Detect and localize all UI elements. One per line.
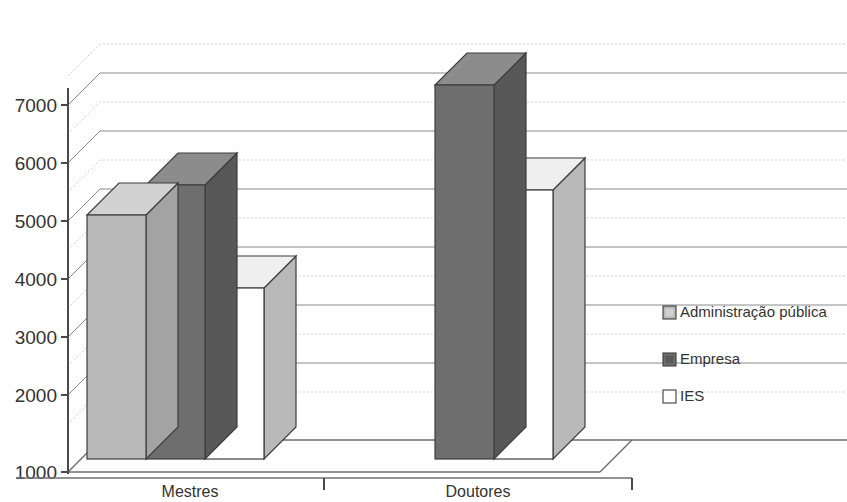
y-tick-label-7000: 7000 <box>15 95 57 116</box>
bar-side-face <box>494 53 526 459</box>
y-tick-label-2000: 2000 <box>15 385 57 406</box>
y-tick-label-4000: 4000 <box>15 269 57 290</box>
legend-swatch-inner-administracao-publica <box>666 309 674 317</box>
x-axis: Mestres Doutores <box>16 478 632 500</box>
y-tick-label-3000: 3000 <box>15 327 57 348</box>
bar-chart: 7000 6000 5000 4000 3000 2000 1000 <box>0 0 847 502</box>
x-category-label-doutores: Doutores <box>446 483 511 500</box>
y-tick-label-1000: 1000 <box>15 462 57 483</box>
bar-side-face <box>146 183 178 459</box>
y-axis: 7000 6000 5000 4000 3000 2000 1000 <box>15 88 68 483</box>
x-category-label-mestres: Mestres <box>162 483 219 500</box>
legend-item-ies[interactable]: IES <box>663 387 704 404</box>
legend-item-administracao-publica[interactable]: Administração pública <box>663 303 827 320</box>
legend-label-empresa: Empresa <box>680 350 741 367</box>
bar-front-face <box>87 215 146 459</box>
bar-front-face <box>435 85 494 459</box>
legend-swatch-ies <box>663 390 676 403</box>
y-tick-label-5000: 5000 <box>15 211 57 232</box>
legend: Administração pública Empresa IES <box>663 303 827 404</box>
y-tick-label-6000: 6000 <box>15 153 57 174</box>
bar-side-face <box>264 256 296 459</box>
chart-canvas: 7000 6000 5000 4000 3000 2000 1000 <box>0 0 847 502</box>
legend-item-empresa[interactable]: Empresa <box>663 350 741 367</box>
bar-doutores-empresa[interactable] <box>435 53 526 459</box>
legend-label-administracao-publica: Administração pública <box>680 303 827 320</box>
bar-mestres-administracao-publica[interactable] <box>87 183 178 459</box>
bar-side-face <box>553 158 585 459</box>
bar-side-face <box>205 153 237 459</box>
floor-right-edge <box>600 440 632 472</box>
legend-swatch-inner-empresa <box>666 356 674 364</box>
legend-label-ies: IES <box>680 387 704 404</box>
